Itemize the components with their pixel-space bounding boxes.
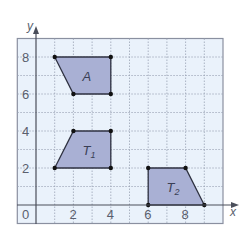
vertex-point [71, 129, 75, 133]
x-tick-label: 6 [144, 207, 151, 222]
vertex-point [53, 166, 57, 170]
vertex-point [109, 92, 113, 96]
vertex-point [146, 166, 150, 170]
y-axis-arrow-icon [33, 26, 39, 34]
coordinate-grid: x y 0 24682468 AT1T2 [0, 0, 246, 234]
vertex-point [183, 166, 187, 170]
y-tick-label: 4 [22, 124, 29, 139]
vertex-point [71, 92, 75, 96]
x-tick-label: 8 [182, 207, 189, 222]
shape-label-a: A [81, 69, 91, 84]
x-tick-label: 4 [107, 207, 114, 222]
x-axis-label: x [229, 205, 237, 219]
vertex-point [53, 55, 57, 59]
vertex-point [109, 55, 113, 59]
y-tick-label: 6 [22, 87, 29, 102]
y-axis-label: y [26, 19, 34, 33]
y-tick-label: 2 [22, 161, 29, 176]
vertex-point [109, 166, 113, 170]
vertex-point [109, 129, 113, 133]
x-tick-label: 2 [69, 207, 76, 222]
origin-label: 0 [22, 207, 29, 222]
y-tick-label: 8 [22, 50, 29, 65]
